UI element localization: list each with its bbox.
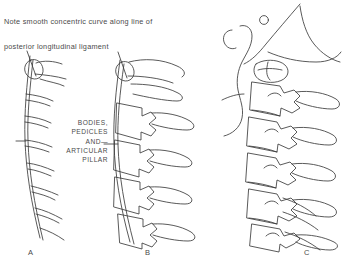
panel-c-vertebra-c6: [250, 224, 300, 252]
panel-b-c4-transverse: [150, 150, 192, 167]
panel-b-c5-transverse: [150, 187, 192, 204]
panel-c-c3-facet-mark: [265, 129, 278, 132]
panel-a-segment-mark-2b: [25, 122, 48, 128]
panel-letter-c: C: [304, 248, 310, 257]
panel-a-segment-mark-5: [31, 186, 58, 195]
cervical-spine-figure: Note smooth concentric curve along line …: [0, 0, 344, 266]
panel-b-vertebra-c4: [114, 140, 154, 177]
panel-b-axis-spinous: [131, 84, 182, 101]
panel-letter-a: A: [28, 248, 33, 257]
panel-c-c6-facet-mark: [266, 233, 279, 236]
panel-b-c6-transverse: [153, 224, 195, 241]
spine-illustration: [0, 0, 344, 266]
panel-c-c5-facet-mark: [265, 201, 278, 204]
panel-a-atlas-arch-lower: [35, 74, 66, 79]
panel-b-drawing: [114, 52, 195, 249]
panel-a-segment-mark-2: [25, 116, 51, 123]
panel-a-drawing: [16, 51, 66, 240]
panel-a-anterior-line: [28, 60, 43, 240]
panel-a-segment-mark-3: [25, 140, 52, 147]
panel-c-nuchal-outline: [224, 25, 252, 136]
panel-c-atlas-body: [254, 60, 288, 82]
panel-c-landmark-circle: [260, 16, 269, 25]
panel-c-atlas-arch: [258, 69, 282, 71]
panel-b-c3-transverse: [152, 113, 194, 130]
panel-a-segment-mark-7: [40, 228, 64, 240]
panel-c-c4-transverse-process: [292, 163, 335, 181]
panel-a-segment-mark-4b: [28, 169, 51, 176]
panel-a-segment-mark-1b: [26, 100, 50, 106]
panel-c-c2-facet-mark: [268, 93, 281, 96]
panel-c-odontoid-process: [267, 62, 270, 80]
panel-b-atlas-transverse-lower: [128, 76, 173, 83]
panel-c-drawing: [222, 4, 341, 252]
panel-b-vertebra-c5: [114, 177, 154, 214]
panel-c-c2-transverse-process: [296, 91, 339, 109]
panel-a-segment-mark-5b: [32, 192, 55, 200]
panel-letter-b: B: [145, 248, 150, 257]
panel-b-atlas-transverse-upper: [129, 60, 184, 77]
panel-c-c3-transverse-process: [293, 127, 336, 145]
panel-a-segment-mark-6: [35, 208, 62, 219]
panel-c-c4-facet-mark: [264, 165, 277, 168]
panel-c-posterior-neck-line: [223, 30, 236, 49]
panel-a-axis-process: [40, 79, 64, 86]
panel-c-occiput-curve: [300, 6, 340, 62]
panel-c-skull-base: [244, 4, 300, 64]
panel-c-mandible-line: [268, 52, 341, 62]
panel-b-vertebra-c3: [116, 103, 156, 140]
